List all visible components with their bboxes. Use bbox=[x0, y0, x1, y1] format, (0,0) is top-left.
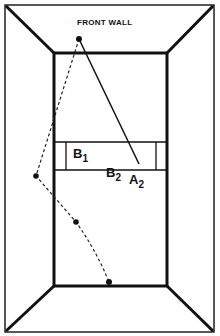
corner-line-bottom-left bbox=[6, 286, 54, 331]
point-dot-side-wall bbox=[33, 173, 39, 179]
label-b2-base: B bbox=[106, 165, 115, 180]
point-dot-front-wall bbox=[76, 36, 82, 42]
label-a2-base: A bbox=[129, 172, 138, 187]
point-dot-back bbox=[106, 279, 112, 285]
court-diagram: FRONT WALL B1 B2 A2 bbox=[0, 0, 220, 336]
label-a2: A2 bbox=[129, 172, 144, 187]
label-b1: B1 bbox=[73, 146, 88, 161]
label-b1-sub: 1 bbox=[82, 153, 88, 164]
label-b2-sub: 2 bbox=[115, 172, 121, 183]
point-dot-floor-mid bbox=[73, 219, 79, 225]
label-b2: B2 bbox=[106, 165, 121, 180]
label-b1-base: B bbox=[73, 146, 82, 161]
label-a2-sub: 2 bbox=[138, 179, 144, 190]
solid-ball-path bbox=[79, 39, 139, 164]
corner-line-top-left bbox=[6, 6, 54, 53]
corner-line-bottom-right bbox=[167, 286, 213, 331]
front-wall-label: FRONT WALL bbox=[77, 18, 132, 27]
corner-line-top-right bbox=[167, 6, 213, 53]
